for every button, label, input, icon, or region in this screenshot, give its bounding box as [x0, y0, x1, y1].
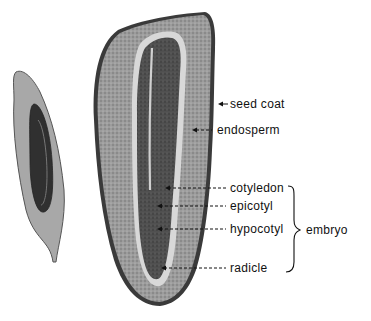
small-seed-section: [14, 71, 65, 262]
label-seed-coat: seed coat: [230, 98, 285, 110]
label-epicotyl: epicotyl: [230, 200, 273, 212]
label-embryo: embryo: [306, 224, 348, 236]
label-radicle: radicle: [230, 262, 267, 274]
label-cotyledon: cotyledon: [230, 182, 284, 194]
label-endosperm: endosperm: [217, 124, 280, 136]
embryo-brace: [286, 186, 300, 272]
seed-section-figure: [0, 0, 371, 321]
label-hypocotyl: hypocotyl: [230, 223, 283, 235]
large-seed-section: [94, 12, 216, 306]
